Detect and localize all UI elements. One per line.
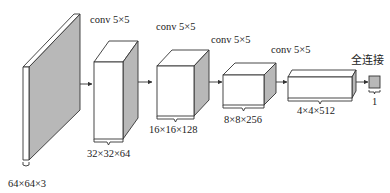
- conv3-dims-label: 8×8×256: [224, 114, 262, 125]
- conv4-dims-label: 4×4×512: [297, 105, 335, 116]
- conv4-brace: [288, 98, 352, 104]
- conv1-front: [94, 62, 123, 139]
- conv1-brace: [94, 139, 123, 145]
- conv2-front: [157, 66, 194, 116]
- layer-input: 64×64×3: [8, 14, 80, 189]
- conv4-top: [288, 70, 356, 77]
- layer-conv3: conv 5×5 8×8×256: [211, 34, 276, 125]
- conv2-op-label: conv 5×5: [156, 21, 195, 32]
- conv2-brace: [157, 116, 194, 122]
- conv1-dims-label: 32×32×64: [87, 148, 131, 159]
- conv2-dims-label: 16×16×128: [149, 124, 198, 135]
- input-dims-label: 64×64×3: [8, 178, 46, 189]
- layer-conv4: conv 5×5 4×4×512: [271, 44, 356, 116]
- conv1-op-label: conv 5×5: [90, 14, 129, 25]
- cnn-diagram: 64×64×3 conv 5×5 32×32×64 conv 5×5 16×16…: [0, 0, 390, 193]
- layer-conv1: conv 5×5 32×32×64: [87, 14, 138, 159]
- conv3-front: [223, 75, 264, 105]
- conv4-op-label: conv 5×5: [271, 44, 310, 55]
- fc-node: [369, 76, 380, 88]
- conv4-front: [288, 77, 352, 98]
- fc-op-label: 全连接: [351, 53, 384, 67]
- fc-brace: [369, 90, 380, 94]
- input-slab-edge: [23, 67, 29, 160]
- conv3-brace: [223, 105, 264, 111]
- fc-dims-label: 1: [372, 96, 377, 107]
- layer-conv2: conv 5×5 16×16×128: [149, 21, 209, 135]
- input-brace: [23, 162, 29, 166]
- conv3-op-label: conv 5×5: [211, 34, 250, 45]
